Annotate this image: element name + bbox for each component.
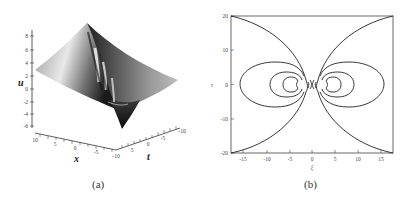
z-tick: -2 <box>23 99 28 105</box>
z-tick: 4 <box>25 60 28 66</box>
x-axis: 10 5 0 -5 -10 x <box>32 133 120 164</box>
y-axis-label: τ <box>211 82 214 88</box>
z-tick: 8 <box>25 33 28 39</box>
surface-plot-panel: 8 6 4 2 0 -2 -4 -6 u <box>0 0 200 203</box>
surface <box>35 23 178 129</box>
x-tick: 10 <box>32 137 38 143</box>
x-tick: 10 <box>355 156 361 162</box>
z-tick: 2 <box>25 73 28 79</box>
z-tick: -6 <box>23 123 28 129</box>
t-axis: 5 0 -5 -10 t <box>116 126 186 162</box>
y-tick: 20 <box>223 13 229 19</box>
surface-plot: 8 6 4 2 0 -2 -4 -6 u <box>0 0 200 203</box>
x-tick: -5 <box>288 156 293 162</box>
x-axis-label: x <box>73 153 79 164</box>
t-tick: 5 <box>131 147 134 153</box>
contour-lines <box>231 16 393 153</box>
z-tick: 0 <box>25 86 28 92</box>
x-tick: -10 <box>263 156 271 162</box>
x-axis-label: ξ <box>311 164 314 171</box>
x-tick: -15 <box>239 156 247 162</box>
z-axis-label: u <box>18 77 24 88</box>
y-tick: 10 <box>223 47 229 53</box>
x-tick: 5 <box>54 141 57 147</box>
x-tick: 0 <box>311 156 314 162</box>
z-tick: -4 <box>23 111 28 117</box>
y-tick: -10 <box>221 116 229 122</box>
caption-b: (b) <box>304 178 317 190</box>
z-tick: 6 <box>25 47 28 53</box>
z-axis: 8 6 4 2 0 -2 -4 -6 u <box>18 30 34 129</box>
x-tick: 5 <box>334 156 337 162</box>
caption-a: (a) <box>92 178 104 190</box>
x-tick: 15 <box>378 156 384 162</box>
x-tick: -10 <box>112 153 120 159</box>
t-axis-label: t <box>147 151 151 162</box>
contour-plot: 20 10 0 -10 -20 τ -15 -10 -5 0 5 10 15 ξ <box>200 0 405 203</box>
t-tick: -5 <box>161 135 166 141</box>
y-axis: 20 10 0 -10 -20 τ <box>211 13 234 156</box>
x-tick: -5 <box>94 149 99 155</box>
t-tick: 0 <box>147 141 150 147</box>
t-tick: -10 <box>178 128 186 134</box>
plot-frame <box>231 16 393 153</box>
y-tick: 0 <box>225 82 228 88</box>
y-tick: -20 <box>221 150 229 156</box>
x-tick: 0 <box>74 145 77 151</box>
contour-plot-panel: 20 10 0 -10 -20 τ -15 -10 -5 0 5 10 15 ξ <box>200 0 405 203</box>
